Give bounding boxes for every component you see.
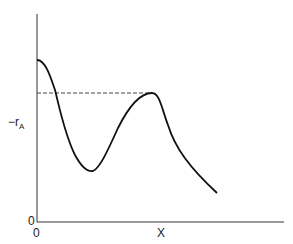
x-axis-label: X xyxy=(157,227,165,239)
x-origin-label: 0 xyxy=(33,227,40,239)
rate-curve xyxy=(37,60,217,193)
chart-canvas xyxy=(0,0,293,244)
y-axis-label: −rA xyxy=(8,116,24,131)
